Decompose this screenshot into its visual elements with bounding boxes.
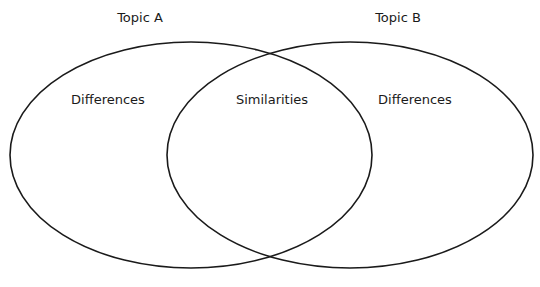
topic-a-differences-label: Differences	[71, 92, 145, 107]
ellipse-topic-b	[167, 42, 533, 268]
venn-diagram: Topic A Topic B Differences Similarities…	[0, 0, 540, 287]
venn-shapes	[0, 0, 540, 287]
topic-a-title: Topic A	[117, 10, 163, 25]
ellipse-topic-a	[10, 42, 372, 268]
similarities-label: Similarities	[236, 92, 308, 107]
topic-b-title: Topic B	[375, 10, 421, 25]
topic-b-differences-label: Differences	[378, 92, 452, 107]
